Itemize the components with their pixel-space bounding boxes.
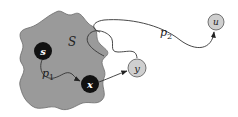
region-label: S [68,35,76,49]
node-x: x [81,75,99,93]
path-p2 [94,20,214,48]
svg-text:u: u [213,17,219,27]
path-diagram: S p1 p2 s x y u [0,0,238,117]
node-u: u [208,14,224,30]
svg-text:y: y [133,63,140,74]
svg-text:s: s [40,46,46,57]
node-y: y [128,59,146,77]
path-p2-label: p2 [160,26,172,41]
svg-text:x: x [86,79,94,90]
node-s: s [34,42,52,60]
region-s [20,11,108,110]
